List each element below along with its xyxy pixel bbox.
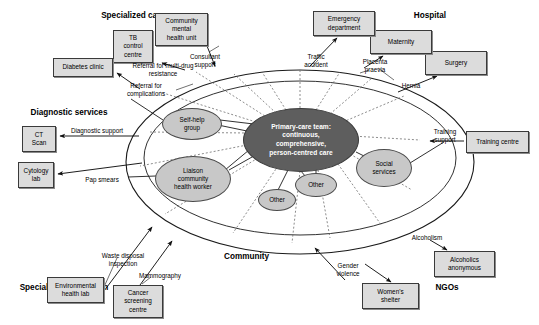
edge-label-traffic-accident: Traffic accident (297, 53, 335, 68)
box-maternity-label: Maternity (388, 38, 414, 46)
edge-label-pap-smears: Pap smears (78, 176, 126, 184)
section-label-ngos: NGOs (425, 283, 469, 293)
box-cytology-lab[interactable]: Cytology lab (18, 162, 54, 188)
edge-label-hernia: Hernia (396, 82, 426, 90)
node-other-left-label: Other (269, 196, 285, 204)
box-cancer-screening-centre[interactable]: Cancer screening centre (113, 285, 163, 318)
primary-care-team-label: Primary-care team: continuous, comprehen… (269, 123, 332, 157)
edge-label-training-support: Training support (427, 128, 463, 143)
box-ct-scan[interactable]: CT Scan (22, 126, 56, 152)
edge-label-diagnostic-support: Diagnostic support (62, 127, 132, 135)
box-surgery[interactable]: Surgery (425, 51, 487, 75)
box-tb-control-centre[interactable]: TB control centre (113, 30, 153, 63)
box-cancer-screening-centre-label: Cancer screening centre (124, 289, 152, 314)
box-ct-scan-label: CT Scan (32, 131, 47, 147)
box-environmental-health-lab[interactable]: Environmental health lab (47, 277, 104, 303)
box-surgery-label: Surgery (445, 59, 467, 67)
box-alcoholics-anonymous[interactable]: Alcoholics anonymous (434, 251, 495, 277)
box-alcoholics-anonymous-label: Alcoholics anonymous (448, 256, 481, 272)
box-environmental-health-lab-label: Environmental health lab (55, 282, 96, 298)
box-maternity[interactable]: Maternity (370, 30, 432, 54)
box-community-mental-health-unit[interactable]: Community mental health unit (155, 13, 208, 46)
section-label-hospital: Hospital (400, 11, 460, 21)
box-training-centre-label: Training centre (476, 138, 518, 146)
edge-label-waste-disposal-inspection: Waste disposal inspection (92, 252, 154, 267)
node-self-help-group[interactable]: Self-help group (162, 108, 222, 140)
box-diabetes-clinic[interactable]: Diabetes clinic (53, 58, 113, 77)
edge-label-alcoholism: Alcoholism (405, 234, 449, 242)
box-community-mental-health-unit-label: Community mental health unit (165, 17, 197, 42)
arrow-to-cytology-lab (58, 163, 142, 174)
node-social-services[interactable]: Social services (356, 149, 412, 187)
box-cytology-lab-label: Cytology lab (24, 167, 49, 183)
node-other-mid[interactable]: Other (295, 173, 337, 197)
primary-care-team-node[interactable]: Primary-care team: continuous, comprehen… (243, 108, 359, 172)
node-other-left[interactable]: Other (258, 189, 296, 211)
node-liaison-label: Liaison community health worker (174, 167, 212, 191)
box-tb-control-centre-label: TB control centre (123, 34, 142, 59)
community-label: Community (224, 252, 269, 261)
box-emergency-department-label: Emergency department (328, 15, 360, 31)
diagram-canvas: Specialized care Hospital Diagnostic ser… (0, 0, 539, 325)
edge-label-gender-violence: Gender violence (330, 262, 366, 277)
box-training-centre[interactable]: Training centre (466, 131, 529, 153)
arrow-to-womens-shelter (365, 264, 391, 282)
edge-label-mammography: Mammography (131, 272, 189, 280)
box-womens-shelter-label: Women's shelter (377, 288, 403, 304)
node-other-mid-label: Other (308, 181, 324, 189)
box-womens-shelter[interactable]: Women's shelter (362, 283, 419, 309)
node-liaison-community-health-worker[interactable]: Liaison community health worker (155, 156, 231, 202)
node-self-help-group-label: Self-help group (180, 116, 205, 132)
box-diabetes-clinic-label: Diabetes clinic (62, 63, 103, 71)
edge-label-consultant-support: Consultant support (183, 53, 227, 68)
edge-label-referral-complications: Referral for complications (117, 82, 175, 97)
edge-label-placenta-praevia: Placenta praevia (356, 58, 394, 73)
node-social-services-label: Social services (372, 160, 395, 176)
section-label-diagnostic-services: Diagnostic services (14, 108, 124, 118)
box-emergency-department[interactable]: Emergency department (313, 11, 375, 36)
